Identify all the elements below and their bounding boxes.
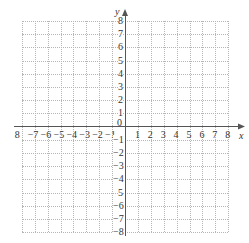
y-tick-label: −3 [113, 161, 124, 171]
x-tick-label: 1 [135, 130, 140, 140]
x-tick-label: 3 [161, 130, 166, 140]
y-tick-label: −1 [113, 135, 124, 145]
coordinate-plane: x y 8−7−6−5−4−3−2−1012345678 87654321−1−… [0, 0, 249, 243]
y-tick-label: 8 [118, 16, 123, 26]
x-axis-label: x [239, 131, 243, 141]
y-tick-label: 4 [118, 69, 123, 79]
y-tick-label: −2 [113, 148, 124, 158]
x-tick-label: −6 [41, 130, 52, 140]
x-tick-label: 4 [174, 130, 179, 140]
y-tick-label: −7 [113, 214, 124, 224]
x-tick-label: 7 [212, 130, 217, 140]
x-tick-label: −3 [79, 130, 90, 140]
x-tick-label: 8 [15, 130, 20, 140]
y-tick-label: 5 [118, 56, 123, 66]
y-axis [125, 14, 126, 236]
y-tick-label: 1 [118, 108, 123, 118]
x-tick-label: 6 [199, 130, 204, 140]
x-tick-label: −5 [54, 130, 65, 140]
y-tick-label: 2 [118, 95, 123, 105]
y-tick-label: 6 [118, 42, 123, 52]
x-tick-label: −4 [66, 130, 77, 140]
x-tick-label: 2 [148, 130, 153, 140]
x-tick-label: 8 [225, 130, 230, 140]
y-tick-label: −4 [113, 174, 124, 184]
x-axis-arrow-icon [238, 124, 245, 130]
x-tick-label: −2 [92, 130, 103, 140]
y-tick-label: −6 [113, 201, 124, 211]
origin-label: 0 [117, 118, 122, 128]
y-tick-label: 3 [118, 82, 123, 92]
y-tick-label: 5 [118, 188, 123, 198]
x-tick-label: −7 [28, 130, 39, 140]
x-tick-label: 5 [187, 130, 192, 140]
y-tick-label: −8 [113, 227, 124, 237]
y-tick-label: 7 [118, 29, 123, 39]
